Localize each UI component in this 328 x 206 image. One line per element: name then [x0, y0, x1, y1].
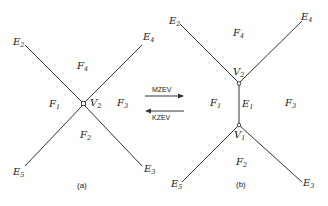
- label-e4: E4: [300, 11, 312, 24]
- label-e3: E3: [143, 163, 155, 176]
- vertex-v2-marker: [237, 82, 241, 86]
- edge-e3-line: [240, 126, 302, 182]
- label-e2: E2: [168, 15, 180, 28]
- diagram-a: E2 E4 E5 E3 V2 F4 F1 F3 F2 (a): [12, 31, 155, 190]
- edge-e3-line: [85, 106, 142, 166]
- operator-arrows: MZEV KZEV: [145, 86, 184, 121]
- backward-arrowhead-icon: [145, 109, 151, 114]
- label-e5: E5: [170, 178, 182, 191]
- caption-b: (b): [236, 180, 246, 189]
- kzev-label: KZEV: [152, 114, 171, 121]
- edge-e5-line: [25, 106, 82, 166]
- label-f3: F3: [284, 97, 296, 110]
- label-f1: F1: [48, 98, 60, 111]
- label-v1: V1: [234, 129, 245, 142]
- label-f1: F1: [209, 97, 221, 110]
- label-v2: V2: [233, 66, 244, 79]
- label-f3: F3: [116, 97, 128, 110]
- edge-e4-line: [240, 21, 302, 82]
- mzev-label: MZEV: [152, 86, 172, 93]
- label-f4: F4: [232, 27, 244, 40]
- label-f2: F2: [235, 156, 247, 169]
- edge-e2-line: [180, 24, 238, 82]
- edge-e4-line: [85, 45, 142, 102]
- diagram-b: E2 E4 E1 E5 E3 V2 V1 F4 F1 F3 F2 (b): [168, 11, 314, 191]
- caption-a: (a): [77, 181, 87, 190]
- label-e4: E4: [142, 31, 154, 44]
- label-e1: E1: [241, 98, 253, 111]
- forward-arrowhead-icon: [178, 94, 184, 99]
- edge-e5-line: [182, 126, 238, 182]
- label-e5: E5: [12, 166, 24, 179]
- edge-e2-line: [25, 45, 82, 102]
- label-e2: E2: [12, 36, 24, 49]
- euler-operator-diagram: E2 E4 E5 E3 V2 F4 F1 F3 F2 (a) MZEV KZEV…: [0, 0, 328, 206]
- vertex-v1-marker: [237, 123, 241, 127]
- label-f2: F2: [79, 129, 91, 142]
- label-f4: F4: [76, 60, 88, 73]
- label-e3: E3: [302, 177, 314, 190]
- vertex-v2-marker: [82, 102, 86, 106]
- label-v2: V2: [90, 97, 101, 110]
